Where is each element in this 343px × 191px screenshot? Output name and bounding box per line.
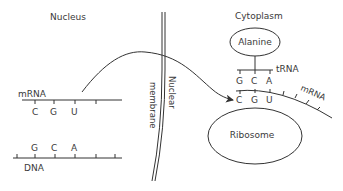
- alanine-label: Alanine: [238, 37, 272, 47]
- dna-base-3: A: [71, 143, 78, 153]
- trna-structure: [237, 56, 273, 74]
- membrane-label-line1: Nuclear: [167, 76, 177, 109]
- ribosome-label: Ribosome: [230, 130, 275, 140]
- dna-label: DNA: [24, 163, 45, 173]
- dna-base-2: C: [51, 143, 57, 153]
- nucleus-mrna-strand: [22, 100, 122, 104]
- cytoplasm-codon-3: U: [266, 95, 273, 105]
- cytoplasm-mrna-label: mRNA: [299, 83, 327, 103]
- dna-base-1: G: [31, 143, 38, 153]
- dna-strand: [13, 154, 122, 158]
- trna-label: tRNA: [276, 64, 300, 74]
- nucleus-mrna-label: mRNA: [18, 89, 47, 99]
- protein-synthesis-diagram: Nucleus Cytoplasm Nuclear membrane mRNA …: [0, 0, 343, 191]
- nucleus-label: Nucleus: [50, 12, 86, 22]
- cytoplasm-codon-2: G: [251, 95, 258, 105]
- nucleus-mrna-base-1: C: [32, 107, 38, 117]
- nucleus-mrna-base-2: G: [50, 107, 57, 117]
- cytoplasm-label: Cytoplasm: [235, 11, 283, 21]
- cytoplasm-codon-1: C: [236, 95, 242, 105]
- nucleus-mrna-base-3: U: [71, 107, 78, 117]
- membrane-label-line2: membrane: [148, 82, 158, 129]
- trna-anticodon-2: C: [251, 76, 257, 86]
- trna-anticodon-1: G: [236, 76, 243, 86]
- trna-anticodon-3: A: [266, 76, 273, 86]
